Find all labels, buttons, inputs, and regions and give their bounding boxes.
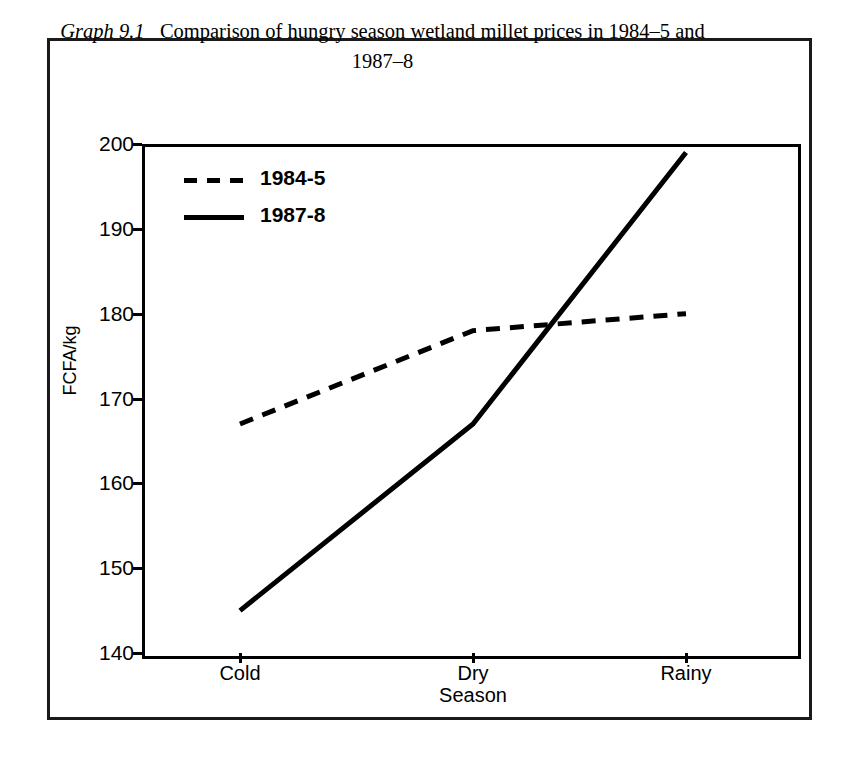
y-tick-mark-190	[133, 228, 142, 231]
y-tick-label-200: 200	[70, 132, 134, 156]
x-tick-label-cold: Cold	[170, 662, 310, 685]
x-tick-mark-rainy	[685, 653, 688, 663]
chart-legend: 1984-5 1987-8	[184, 164, 394, 238]
legend-swatch-solid-icon	[184, 215, 244, 220]
y-tick-label-150: 150	[70, 556, 134, 580]
x-tick-label-dry: Dry	[403, 662, 543, 685]
y-tick-label-140: 140	[70, 641, 134, 665]
legend-label-1987-8: 1987-8	[260, 203, 325, 227]
legend-item-1987-8: 1987-8	[184, 201, 394, 238]
x-tick-mark-dry	[472, 653, 475, 663]
legend-label-1984-5: 1984-5	[260, 166, 325, 190]
y-tick-label-190: 190	[70, 217, 134, 241]
y-tick-mark-170	[133, 398, 142, 401]
x-tick-mark-cold	[239, 653, 242, 663]
legend-item-1984-5: 1984-5	[184, 164, 394, 201]
series-line-1984-5	[240, 314, 686, 424]
figure-page: Graph 9.1 Comparison of hungry season we…	[0, 0, 853, 760]
y-tick-mark-160	[133, 482, 142, 485]
y-tick-mark-200	[133, 143, 142, 146]
y-tick-mark-140	[133, 652, 142, 655]
y-tick-mark-180	[133, 313, 142, 316]
y-tick-label-160: 160	[70, 471, 134, 495]
y-axis-label: FCFA/kg	[60, 281, 81, 441]
legend-swatch-dashed-icon	[184, 178, 244, 183]
x-tick-label-rainy: Rainy	[616, 662, 756, 685]
graph-number-label: Graph 9.1	[60, 20, 144, 42]
caption-text: Comparison of hungry season wetland mill…	[160, 20, 705, 72]
x-axis-label: Season	[403, 684, 543, 707]
y-tick-mark-150	[133, 567, 142, 570]
figure-caption: Graph 9.1 Comparison of hungry season we…	[60, 16, 705, 76]
